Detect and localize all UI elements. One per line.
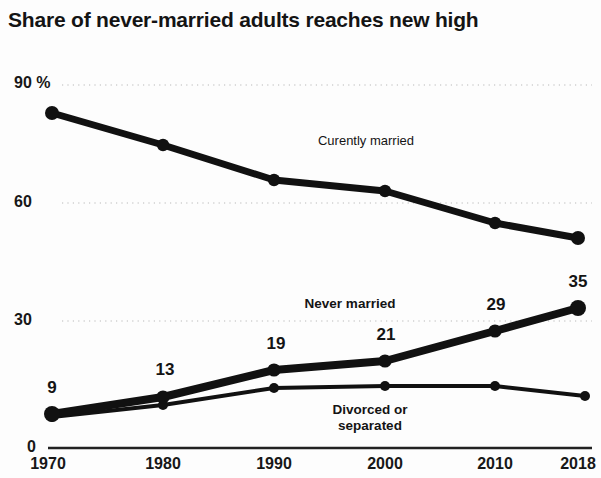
point-label-never-married-1970: 9 xyxy=(47,378,56,398)
x-tick-2010: 2010 xyxy=(477,455,513,473)
series-annotation-currently-married: Curently married xyxy=(318,134,414,149)
series-line-currently-married xyxy=(45,106,585,245)
y-tick-30: 30 xyxy=(14,311,32,329)
y-tick-90: 90 % xyxy=(14,74,50,92)
series-line-never-married xyxy=(44,300,586,422)
chart-plot-area xyxy=(0,0,601,478)
point-label-never-married-1990: 19 xyxy=(267,334,286,354)
gridlines xyxy=(62,85,592,321)
point-label-never-married-2010: 29 xyxy=(487,295,506,315)
y-tick-60: 60 xyxy=(14,193,32,211)
chart-container: Share of never-married adults reaches ne… xyxy=(0,0,601,478)
point-label-never-married-2018: 35 xyxy=(569,272,588,292)
point-label-never-married-1980: 13 xyxy=(156,360,175,380)
series-annotation-never-married: Never married xyxy=(305,296,396,312)
divorced-label-line1: Divorced or xyxy=(332,402,407,418)
x-tick-2000: 2000 xyxy=(367,455,403,473)
point-label-never-married-2000: 21 xyxy=(377,325,396,345)
x-tick-2018: 2018 xyxy=(560,455,596,473)
y-tick-0: 0 xyxy=(27,438,36,456)
x-tick-1970: 1970 xyxy=(30,455,66,473)
divorced-label-line2: separated xyxy=(332,418,407,434)
series-annotation-divorced-separated: Divorced or separated xyxy=(332,402,407,433)
x-tick-1990: 1990 xyxy=(256,455,292,473)
x-tick-1980: 1980 xyxy=(145,455,181,473)
